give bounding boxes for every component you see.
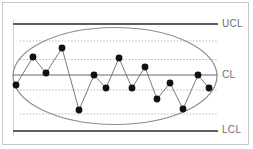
chart-plot-area bbox=[0, 0, 253, 149]
data-point bbox=[30, 54, 37, 61]
data-point bbox=[59, 45, 66, 52]
data-point bbox=[91, 72, 98, 79]
data-point bbox=[13, 82, 20, 89]
data-point bbox=[180, 106, 187, 113]
data-series-line bbox=[16, 48, 209, 110]
data-point bbox=[167, 80, 174, 87]
data-point bbox=[206, 85, 213, 92]
control-chart-svg bbox=[0, 0, 253, 149]
label-cl: CL bbox=[222, 70, 235, 80]
data-point bbox=[142, 64, 149, 71]
data-point bbox=[76, 107, 83, 114]
data-point bbox=[103, 85, 110, 92]
data-point-markers bbox=[13, 45, 213, 114]
label-ucl: UCL bbox=[222, 19, 243, 29]
control-chart-screenshot: UCL CL LCL bbox=[0, 0, 253, 149]
label-lcl: LCL bbox=[222, 125, 241, 135]
data-point bbox=[129, 85, 136, 92]
data-point bbox=[116, 55, 123, 62]
data-point bbox=[43, 70, 50, 77]
data-point bbox=[154, 96, 161, 103]
in-control-ellipse bbox=[13, 28, 217, 125]
data-point bbox=[195, 72, 202, 79]
